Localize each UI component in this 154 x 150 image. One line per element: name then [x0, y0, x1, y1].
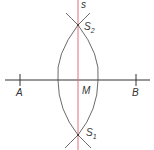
label-s: s: [81, 0, 86, 10]
bisector-diagram: s S2 A M B S1: [0, 0, 154, 150]
label-a: A: [16, 88, 23, 98]
point-s2: [77, 24, 79, 26]
label-b: B: [132, 88, 139, 98]
label-s1: S1: [86, 128, 97, 140]
label-m: M: [82, 86, 90, 96]
label-s2: S2: [84, 22, 95, 34]
point-s1: [77, 134, 79, 136]
construction-drawing: [0, 0, 154, 150]
